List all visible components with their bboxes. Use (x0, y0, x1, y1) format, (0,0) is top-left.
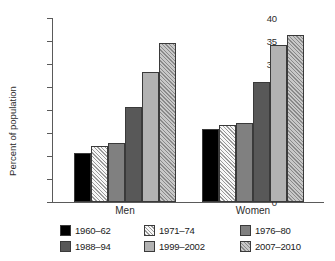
legend-label: 1960–62 (75, 225, 111, 236)
x-axis-label: Men (85, 205, 165, 216)
legend-label: 1999–2002 (159, 241, 205, 252)
legend-item[interactable]: 2007–2010 (240, 241, 326, 252)
bar-group-women (202, 18, 304, 202)
bar (253, 82, 270, 202)
legend-label: 2007–2010 (255, 241, 301, 252)
bar-group-men (74, 18, 176, 202)
y-axis-tick (47, 202, 52, 203)
bar (142, 72, 159, 202)
y-axis-title: Percent of population (7, 51, 18, 211)
legend-swatch (240, 225, 251, 236)
bar (202, 129, 219, 202)
legend-swatch (240, 241, 251, 252)
legend-swatch (144, 241, 155, 252)
plot-area (52, 18, 324, 202)
bar (287, 35, 304, 202)
legend-swatch (60, 225, 71, 236)
bar (270, 45, 287, 202)
legend-item[interactable]: 1988–94 (60, 241, 144, 252)
bar (125, 107, 142, 202)
x-axis-label: Women (213, 205, 293, 216)
legend-item[interactable]: 1999–2002 (144, 241, 240, 252)
bar (219, 125, 236, 202)
bar (159, 43, 176, 202)
bar-groups (52, 18, 324, 202)
bar (91, 146, 108, 202)
legend-swatch (144, 225, 155, 236)
legend-label: 1988–94 (75, 241, 111, 252)
legend-swatch (60, 241, 71, 252)
bar (236, 123, 253, 202)
legend-item[interactable]: 1976–80 (240, 225, 326, 236)
bar (74, 153, 91, 202)
legend-item[interactable]: 1960–62 (60, 225, 144, 236)
legend-label: 1976–80 (255, 225, 291, 236)
x-axis-line (52, 202, 324, 203)
legend-label: 1971–74 (159, 225, 195, 236)
bar-chart: Percent of population 0510152025303540 M… (0, 0, 335, 261)
bar (108, 143, 125, 202)
chart-legend: 1960–621971–741976–801988–941999–2002200… (60, 222, 322, 254)
legend-item[interactable]: 1971–74 (144, 225, 240, 236)
